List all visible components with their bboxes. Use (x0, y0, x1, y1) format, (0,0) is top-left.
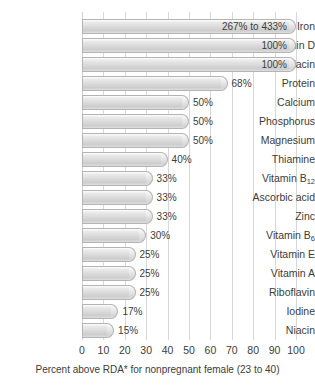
category-label: Phosphorus (237, 114, 315, 129)
bar-end-cap (111, 304, 118, 319)
bar: 33% (82, 190, 153, 205)
bar: 50% (82, 114, 189, 129)
bar: 40% (82, 152, 168, 167)
bar: 30% (82, 228, 146, 243)
bar-end-cap (182, 114, 189, 129)
x-tick-90: 90 (269, 344, 281, 356)
bar-body (82, 57, 289, 72)
bar-value-label: 100% (261, 38, 296, 53)
bar: 25% (82, 285, 136, 300)
bar-end-cap (146, 209, 153, 224)
bar: 15% (82, 323, 114, 338)
category-label: Calcium (237, 95, 315, 110)
x-tick-50: 50 (183, 344, 195, 356)
bar-body (82, 95, 182, 110)
bar-row: Vitamin B1233% (0, 171, 315, 190)
bar-body (82, 171, 146, 186)
bar: 50% (82, 133, 189, 148)
bar-row: Vitamin D100% (0, 38, 315, 57)
bar: 68% (82, 76, 228, 91)
bar-body (82, 114, 182, 129)
category-label: Vitamin E (237, 247, 315, 262)
bar-row: Phosphorus50% (0, 114, 315, 133)
x-tick-60: 60 (205, 344, 217, 356)
bar-end-cap (182, 133, 189, 148)
bar-end-cap (139, 228, 146, 243)
category-label: Magnesium (237, 133, 315, 148)
bar: 267% to 433% (82, 19, 296, 34)
category-label: Niacin (237, 323, 315, 338)
bar-end-cap (129, 266, 136, 281)
bar-value-label: 267% to 433% (222, 19, 296, 34)
bar-body (82, 133, 182, 148)
bar-end-cap (107, 323, 114, 338)
x-tick-0: 0 (79, 344, 85, 356)
category-label: Vitamin B6 (237, 228, 315, 243)
bar-value-label: 100% (261, 57, 296, 72)
x-tick-40: 40 (162, 344, 174, 356)
bar: 33% (82, 209, 153, 224)
bar-value-label: 33% (153, 209, 177, 224)
bar-row: Protein68% (0, 76, 315, 95)
bar-end-cap (129, 285, 136, 300)
bar: 25% (82, 266, 136, 281)
bar-body (82, 285, 129, 300)
bar-value-label: 33% (153, 171, 177, 186)
bar: 100% (82, 57, 296, 72)
bar-value-label: 25% (136, 285, 160, 300)
bar-row: Ascorbic acid33% (0, 190, 315, 209)
category-label: Ascorbic acid (237, 190, 315, 205)
category-label: Thiamine (237, 152, 315, 167)
bar-body (82, 76, 221, 91)
bar-body (82, 190, 146, 205)
bar-row: Vitamin A25% (0, 266, 315, 285)
category-label: Iodine (237, 304, 315, 319)
x-tick-70: 70 (226, 344, 238, 356)
bar: 17% (82, 304, 118, 319)
bar-value-label: 17% (118, 304, 142, 319)
bar-value-label: 40% (168, 152, 192, 167)
bar: 25% (82, 247, 136, 262)
bar-row: Iron267% to 433% (0, 19, 315, 38)
bar-row: Folacin100% (0, 57, 315, 76)
bar-row: Calcium50% (0, 95, 315, 114)
bar-row: Vitamin B630% (0, 228, 315, 247)
bar-row: Riboflavin25% (0, 285, 315, 304)
bar-row: Vitamin E25% (0, 247, 315, 266)
bar-end-cap (221, 76, 228, 91)
bar-end-cap (146, 190, 153, 205)
bar-body (82, 266, 129, 281)
horizontal-bar-chart: Iron267% to 433%Vitamin D100%Folacin100%… (0, 0, 315, 388)
bar-value-label: 25% (136, 247, 160, 262)
bar-body (82, 323, 107, 338)
bar-value-label: 30% (146, 228, 170, 243)
bar-row: Thiamine40% (0, 152, 315, 171)
category-label: Vitamin B12 (237, 171, 315, 186)
bar-row: Niacin15% (0, 323, 315, 342)
x-tick-10: 10 (98, 344, 110, 356)
category-label: Riboflavin (237, 285, 315, 300)
bar-body (82, 209, 146, 224)
bar-value-label: 68% (228, 76, 252, 91)
bar-value-label: 50% (189, 114, 213, 129)
x-axis-title: Percent above RDA* for nonpregnant femal… (0, 364, 315, 375)
bar-body (82, 38, 289, 53)
bar-end-cap (146, 171, 153, 186)
x-tick-80: 80 (247, 344, 259, 356)
bar-body (82, 304, 111, 319)
bar-row: Magnesium50% (0, 133, 315, 152)
bar: 100% (82, 38, 296, 53)
bar: 33% (82, 171, 153, 186)
bar: 50% (82, 95, 189, 110)
bar-row: Zinc33% (0, 209, 315, 228)
bar-value-label: 15% (114, 323, 138, 338)
bar-end-cap (182, 95, 189, 110)
x-tick-30: 30 (140, 344, 152, 356)
bar-value-label: 25% (136, 266, 160, 281)
bar-end-cap (129, 247, 136, 262)
x-tick-20: 20 (119, 344, 131, 356)
category-label: Vitamin A (237, 266, 315, 281)
bar-row: Iodine17% (0, 304, 315, 323)
bar-body (82, 152, 161, 167)
bar-value-label: 33% (153, 190, 177, 205)
